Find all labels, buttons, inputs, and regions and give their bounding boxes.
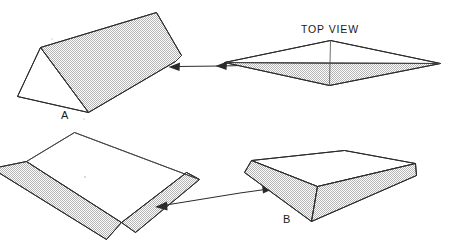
top-view-upper-half <box>225 41 441 64</box>
label-a: A <box>61 109 69 121</box>
top-view-caption: TOP VIEW <box>301 23 359 35</box>
figure-canvas: A TOP VIEW <box>0 0 452 248</box>
arrow-bottom-right-shaft <box>240 190 265 194</box>
prism-a-speck <box>51 38 52 39</box>
shape-triangular-prism-a <box>18 13 182 120</box>
top-view-lower-half <box>225 63 441 86</box>
prism-a-speck-2 <box>83 118 84 119</box>
shape-frustum-underside <box>0 133 200 240</box>
frustum-underside-speck <box>84 176 85 177</box>
shape-top-view-diamond <box>225 41 441 86</box>
arrow-top-right-head <box>216 62 228 71</box>
arrow-top-left <box>169 63 223 72</box>
label-b: B <box>283 213 291 225</box>
arrow-top-left-shaft <box>176 66 222 67</box>
geometry-diagram: A TOP VIEW <box>0 0 452 248</box>
shape-frustum-b <box>245 151 417 222</box>
